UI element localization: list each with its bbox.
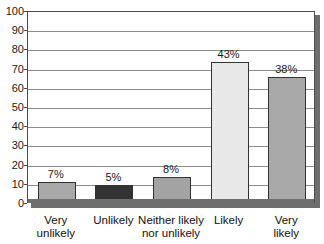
y-axis-tick-mark bbox=[24, 145, 27, 146]
y-axis-tick-label: 20 bbox=[2, 159, 24, 170]
y-axis-tick-label: 0 bbox=[2, 198, 24, 209]
x-axis-category-label: Unlikely bbox=[93, 214, 133, 227]
gridline bbox=[28, 31, 314, 32]
x-axis-category-label: Neither likely nor unlikely bbox=[138, 214, 204, 240]
gridline bbox=[28, 50, 314, 51]
y-axis-tick-label: 30 bbox=[2, 140, 24, 151]
y-axis-tick-label: 40 bbox=[2, 121, 24, 132]
y-axis-tick-label: 50 bbox=[2, 102, 24, 113]
y-axis-tick-label: 70 bbox=[2, 63, 24, 74]
bar-value-label: 43% bbox=[218, 49, 240, 60]
gridline bbox=[28, 70, 314, 71]
y-axis-tick-mark bbox=[24, 184, 27, 185]
bar-value-label: 7% bbox=[48, 169, 64, 180]
y-axis-tick-label: 100 bbox=[2, 6, 24, 17]
bar bbox=[211, 62, 249, 202]
y-axis-tick-mark bbox=[24, 69, 27, 70]
y-axis-tick-label: 60 bbox=[2, 82, 24, 93]
bar-chart: 1009080706050403020100 7%5%8%43%38% Very… bbox=[0, 0, 324, 244]
y-axis-tick-mark bbox=[24, 126, 27, 127]
x-axis-category-label: Very likely bbox=[267, 214, 305, 240]
y-axis-tick-label: 10 bbox=[2, 178, 24, 189]
x-axis-category-label: Very unlikely bbox=[37, 214, 75, 240]
y-axis-tick-label: 90 bbox=[2, 25, 24, 36]
y-axis: 1009080706050403020100 bbox=[0, 0, 24, 244]
y-axis-tick-mark bbox=[24, 11, 27, 12]
y-axis-tick-mark bbox=[24, 88, 27, 89]
y-axis-tick-label: 80 bbox=[2, 44, 24, 55]
y-axis-tick-mark bbox=[24, 30, 27, 31]
bar-value-label: 38% bbox=[275, 64, 297, 75]
plot-shadow-right bbox=[315, 15, 320, 207]
baseline-floor bbox=[28, 199, 314, 203]
bar bbox=[268, 77, 306, 202]
y-axis-tick-mark bbox=[24, 165, 27, 166]
plot-shadow-bottom bbox=[31, 203, 320, 208]
y-axis-tick-mark bbox=[24, 107, 27, 108]
y-axis-tick-mark bbox=[24, 49, 27, 50]
bar-value-label: 8% bbox=[163, 164, 179, 175]
x-axis-category-label: Likely bbox=[214, 214, 243, 227]
bar-value-label: 5% bbox=[105, 172, 121, 183]
y-axis-tick-mark bbox=[24, 203, 27, 204]
